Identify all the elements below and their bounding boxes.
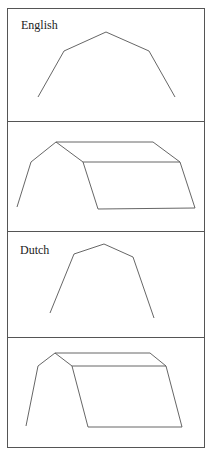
roof-drawings bbox=[0, 0, 209, 458]
english-roof-profile bbox=[38, 32, 175, 97]
dutch-barn-perspective bbox=[26, 353, 182, 427]
english-barn-perspective bbox=[17, 142, 195, 209]
dutch-roof-profile bbox=[50, 244, 154, 318]
